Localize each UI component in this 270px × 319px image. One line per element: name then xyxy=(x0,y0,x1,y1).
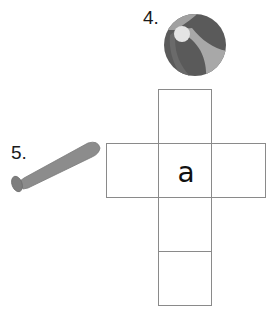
net-square-top xyxy=(158,89,212,144)
bat-knob xyxy=(10,175,25,193)
bat-body xyxy=(20,142,100,189)
beach-ball-icon xyxy=(160,10,240,90)
net-square-bottom xyxy=(158,251,212,306)
net-square-lower xyxy=(158,197,212,252)
net-square-left xyxy=(106,143,159,198)
net-square-right xyxy=(211,143,266,198)
ball-highlight xyxy=(174,26,190,42)
center-letter: a xyxy=(160,150,212,194)
baseball-bat-icon xyxy=(10,142,100,193)
